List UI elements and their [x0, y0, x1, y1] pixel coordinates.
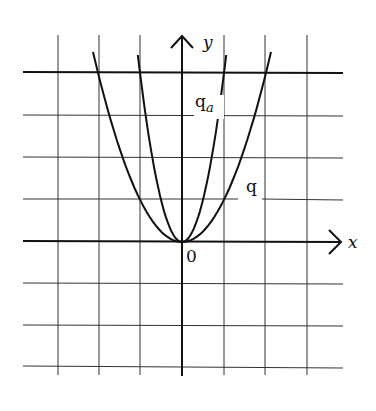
y-axis-label: y: [202, 32, 213, 52]
origin-label: 0: [186, 246, 197, 266]
curve-q-label: q: [246, 176, 257, 196]
parabola-diagram: y x 0 q qa: [0, 0, 376, 411]
x-axis-label: x: [348, 232, 358, 252]
